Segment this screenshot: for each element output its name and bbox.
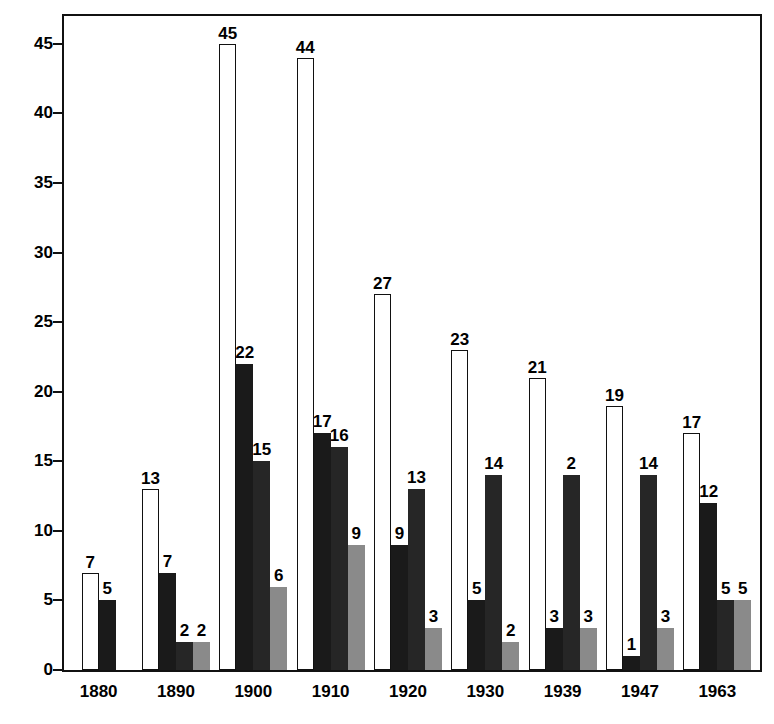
bar-value-label: 1 — [627, 636, 636, 654]
y-axis-tick-mark — [53, 112, 62, 114]
bar-1920-series-2-black: 9 — [391, 545, 408, 670]
bar-1890-series-3-dark: 2 — [176, 642, 193, 670]
y-axis-tick-mark — [53, 530, 62, 532]
bar-1963-series-2-black: 12 — [700, 503, 717, 670]
x-axis-tick-label: 1939 — [544, 682, 582, 702]
bar-value-label: 23 — [450, 331, 469, 349]
bar-value-label: 5 — [472, 580, 481, 598]
y-axis-tick-mark — [53, 43, 62, 45]
bar-value-label: 5 — [738, 580, 747, 598]
bar-1910-series-4-gray: 9 — [348, 545, 365, 670]
y-axis-tick: 20 — [0, 383, 62, 401]
bar-value-label: 3 — [549, 608, 558, 626]
bar-value-label: 2 — [197, 622, 206, 640]
bar-value-label: 6 — [274, 567, 283, 585]
y-axis-tick-mark — [53, 599, 62, 601]
y-axis-tick-mark — [53, 252, 62, 254]
bar-group: 279133 — [373, 16, 450, 670]
y-axis-tick-mark — [53, 460, 62, 462]
bar-1880-series-1-white: 7 — [82, 573, 99, 670]
bar-group: 4417169 — [296, 16, 373, 670]
x-axis-tick-label: 1947 — [621, 682, 659, 702]
bar-1910-series-1-white: 44 — [297, 58, 314, 670]
x-axis-tick-label: 1910 — [312, 682, 350, 702]
y-axis-tick-mark — [53, 669, 62, 671]
bar-1920-series-1-white: 27 — [374, 294, 391, 670]
bar-value-label: 19 — [605, 387, 624, 405]
bar-1900-series-4-gray: 6 — [270, 587, 287, 670]
bar-value-label: 3 — [661, 608, 670, 626]
bar-value-label: 44 — [296, 39, 315, 57]
bar-value-label: 14 — [484, 455, 503, 473]
bar-value-label: 2 — [566, 455, 575, 473]
bar-value-label: 13 — [407, 469, 426, 487]
y-axis-tick-mark — [53, 391, 62, 393]
bar-value-label: 12 — [699, 483, 718, 501]
bar-value-label: 16 — [330, 427, 349, 445]
y-axis-tick: 40 — [0, 104, 62, 122]
bar-value-label: 14 — [639, 455, 658, 473]
y-axis-tick: 25 — [0, 313, 62, 331]
bar-value-label: 7 — [163, 553, 172, 571]
bar-1947-series-2-black: 1 — [623, 656, 640, 670]
bar-value-label: 21 — [528, 359, 547, 377]
bar-value-label: 3 — [429, 608, 438, 626]
bar-value-label: 17 — [682, 414, 701, 432]
bar-group: 21323 — [528, 16, 605, 670]
bar-1939-series-1-white: 21 — [529, 378, 546, 670]
bar-1947-series-1-white: 19 — [606, 406, 623, 670]
bar-1939-series-2-black: 3 — [546, 628, 563, 670]
x-axis-tick-label: 1900 — [234, 682, 272, 702]
y-axis-tick: 5 — [0, 591, 62, 609]
bar-value-label: 7 — [85, 554, 94, 572]
bar-1890-series-2-black: 7 — [159, 573, 176, 670]
bar-1963-series-4-gray: 5 — [734, 600, 751, 670]
bar-value-label: 5 — [721, 580, 730, 598]
bar-value-label: 15 — [252, 441, 271, 459]
y-axis-tick-mark — [53, 321, 62, 323]
bar-1963-series-3-dark: 5 — [717, 600, 734, 670]
bar-1910-series-2-black: 17 — [314, 433, 331, 670]
bar-1890-series-1-white: 13 — [142, 489, 159, 670]
bar-value-label: 13 — [141, 470, 160, 488]
y-axis-tick: 35 — [0, 174, 62, 192]
bar-chart: 051015202530354045 751372245221564417169… — [0, 0, 774, 724]
bar-value-label: 17 — [313, 413, 332, 431]
bar-1920-series-3-dark: 13 — [408, 489, 425, 670]
y-axis-tick: 45 — [0, 35, 62, 53]
bar-1939-series-4-gray: 3 — [580, 628, 597, 670]
bar-1900-series-3-dark: 15 — [253, 461, 270, 670]
plot-area: 7513722452215644171692791332351422132319… — [64, 16, 760, 670]
bar-1900-series-2-black: 22 — [236, 364, 253, 670]
bar-1900-series-1-white: 45 — [219, 44, 236, 670]
y-axis-tick: 0 — [0, 661, 62, 679]
bar-1930-series-2-black: 5 — [468, 600, 485, 670]
bar-value-label: 5 — [102, 580, 111, 598]
bar-value-label: 2 — [506, 622, 515, 640]
y-axis-tick-mark — [53, 182, 62, 184]
bar-group: 4522156 — [219, 16, 296, 670]
bar-group: 191143 — [605, 16, 682, 670]
y-axis: 051015202530354045 — [0, 0, 62, 724]
bar-group: 75 — [64, 16, 141, 670]
bar-1930-series-1-white: 23 — [451, 350, 468, 670]
bar-group: 235142 — [451, 16, 528, 670]
x-axis-tick-label: 1880 — [80, 682, 118, 702]
bar-1947-series-4-gray: 3 — [657, 628, 674, 670]
bar-1930-series-4-gray: 2 — [502, 642, 519, 670]
bar-value-label: 3 — [583, 608, 592, 626]
x-axis-tick-label: 1920 — [389, 682, 427, 702]
bar-group: 13722 — [141, 16, 218, 670]
bar-value-label: 27 — [373, 275, 392, 293]
bar-1947-series-3-dark: 14 — [640, 475, 657, 670]
x-axis-tick-label: 1930 — [466, 682, 504, 702]
bar-1939-series-3-dark: 2 — [563, 475, 580, 670]
bar-1880-series-2-black: 5 — [99, 600, 116, 670]
x-axis: 188018901900191019201930193919471963 — [62, 676, 762, 716]
y-axis-tick: 10 — [0, 522, 62, 540]
bar-value-label: 22 — [235, 344, 254, 362]
x-axis-tick-label: 1890 — [157, 682, 195, 702]
bar-value-label: 45 — [218, 25, 237, 43]
x-axis-tick-label: 1963 — [698, 682, 736, 702]
bar-value-label: 9 — [395, 525, 404, 543]
